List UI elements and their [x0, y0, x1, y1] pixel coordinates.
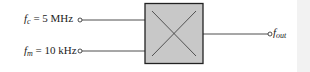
- input-wire-carrier: [78, 18, 145, 22]
- output-wire: [203, 32, 272, 36]
- mixer-diagram: [0, 0, 310, 72]
- mixer-block: [145, 4, 203, 64]
- input-wire-modulating: [78, 49, 145, 53]
